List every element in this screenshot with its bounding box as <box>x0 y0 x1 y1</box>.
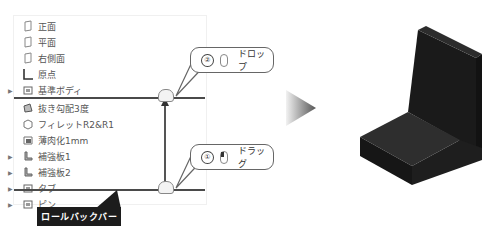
drag-callout: ① ドラッグ <box>190 144 274 170</box>
plane-icon <box>22 20 34 32</box>
fillet-icon <box>22 118 34 130</box>
step-number: ① <box>201 151 214 164</box>
plane-icon <box>22 36 34 48</box>
result-arrow-icon <box>284 88 318 128</box>
tree-item-right-plane[interactable]: 右側面 <box>22 50 65 66</box>
body-icon <box>22 182 34 194</box>
expand-caret-icon[interactable]: ▶ <box>8 169 13 176</box>
tree-item-label: 右側面 <box>38 52 65 65</box>
step-number: ② <box>201 54 214 67</box>
tree-item-front-plane[interactable]: 正面 <box>22 18 56 34</box>
expand-caret-icon[interactable]: ▶ <box>8 201 13 208</box>
tree-item-label: 抜き勾配3度 <box>38 102 89 115</box>
shell-icon <box>22 134 34 146</box>
tree-item-rib-1[interactable]: ▶ 補強板1 <box>22 148 71 164</box>
mouse-icon <box>220 54 229 67</box>
tree-item-tab[interactable]: ▶ タブ <box>22 180 56 196</box>
tree-item-label: 薄肉化1mm <box>38 134 88 147</box>
expand-caret-icon[interactable]: ▶ <box>8 153 13 160</box>
tree-item-label: タブ <box>38 182 56 195</box>
tree-item-top-plane[interactable]: 平面 <box>22 34 56 50</box>
drag-arrow-line <box>164 100 166 186</box>
callout-label: ドラッグ <box>238 144 273 170</box>
tree-item-origin[interactable]: 原点 <box>22 66 56 82</box>
rib-icon <box>22 166 34 178</box>
body-icon <box>22 198 34 210</box>
tree-item-label: 原点 <box>38 68 56 81</box>
draft-icon <box>22 102 34 114</box>
tree-item-label: 補強板1 <box>38 150 71 163</box>
tree-item-label: 補強板2 <box>38 166 71 179</box>
rollback-bar-label: ロールバックバー <box>37 207 121 226</box>
drop-callout: ② ドロップ <box>190 47 274 73</box>
tree-item-base-body[interactable]: ▶ 基準ボディ <box>22 82 82 98</box>
tree-item-label: フィレットR2&R1 <box>38 118 114 131</box>
body-icon <box>22 84 34 96</box>
callout-label: ドロップ <box>238 47 273 73</box>
tree-item-label: 基準ボディ <box>38 84 82 97</box>
tree-item-shell[interactable]: 薄肉化1mm <box>22 132 88 148</box>
tree-item-rib-2[interactable]: ▶ 補強板2 <box>22 164 71 180</box>
tree-item-draft[interactable]: 抜き勾配3度 <box>22 100 89 116</box>
expand-caret-icon[interactable]: ▶ <box>8 87 13 94</box>
3d-model-view <box>330 0 494 235</box>
tree-item-label: 正面 <box>38 20 56 33</box>
origin-icon <box>22 68 34 80</box>
tree-item-fillet[interactable]: フィレットR2&R1 <box>22 116 114 132</box>
mouse-left-click-icon <box>220 151 229 164</box>
expand-caret-icon[interactable]: ▶ <box>8 185 13 192</box>
rib-icon <box>22 150 34 162</box>
plane-icon <box>22 52 34 64</box>
tree-item-label: 平面 <box>38 36 56 49</box>
